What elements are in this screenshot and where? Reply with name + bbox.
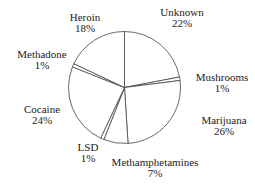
slice-label-mushrooms: Mushrooms1%: [196, 72, 249, 94]
slice-label-heroin: Heroin18%: [70, 12, 101, 34]
slice-label-percent: 18%: [70, 23, 101, 34]
slice-label-unknown: Unknown22%: [160, 7, 203, 29]
slice-label-percent: 1%: [78, 153, 99, 164]
slice-label-lsd: LSD1%: [78, 142, 99, 164]
slice-label-cocaine: Cocaine24%: [24, 104, 60, 126]
slice-label-methamphetamines: Methamphetamines7%: [112, 157, 199, 179]
slice-label-percent: 1%: [17, 60, 66, 71]
slice-label-percent: 22%: [160, 18, 203, 29]
slice-label-methadone: Methadone1%: [17, 49, 66, 71]
slice-label-marijuana: Marijuana26%: [201, 115, 246, 137]
slice-label-percent: 1%: [196, 83, 249, 94]
slice-label-percent: 26%: [201, 126, 246, 137]
slice-label-percent: 7%: [112, 168, 199, 179]
slice-label-percent: 24%: [24, 115, 60, 126]
pie-slice-marijuana: [125, 80, 181, 143]
